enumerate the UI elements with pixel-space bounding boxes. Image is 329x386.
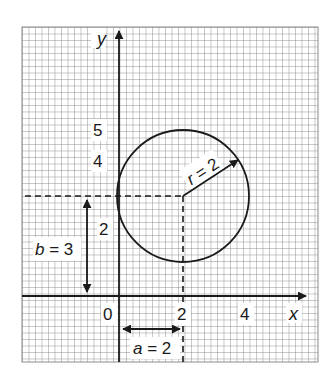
grid-paper bbox=[22, 27, 318, 362]
x-axis-label: x bbox=[288, 304, 299, 324]
a-label: a = 2 bbox=[133, 339, 171, 358]
circle-diagram: r = 2 y x 0 2 4 2 4 5 b = 3 a = 2 bbox=[0, 0, 329, 386]
y-tick-5: 5 bbox=[93, 121, 102, 140]
b-label: b = 3 bbox=[35, 240, 73, 259]
y-tick-4: 4 bbox=[93, 152, 102, 171]
y-tick-2: 2 bbox=[99, 220, 108, 239]
origin-label: 0 bbox=[103, 305, 112, 324]
y-axis-label: y bbox=[95, 29, 107, 49]
x-tick-4: 4 bbox=[240, 305, 249, 324]
x-tick-2: 2 bbox=[177, 305, 186, 324]
